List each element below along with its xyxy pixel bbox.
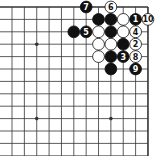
black-stone (117, 38, 129, 50)
star-point-icon (35, 117, 39, 121)
black-stone (105, 14, 117, 26)
white-stone (93, 26, 105, 38)
white-stone-move-6: 6 (105, 1, 117, 13)
black-stone-icon (105, 14, 117, 26)
black-stone-icon (93, 14, 105, 26)
black-stone-move-5: 5 (80, 26, 92, 38)
black-stone (105, 51, 117, 63)
black-stone-icon (105, 26, 117, 38)
move-number-label: 10 (142, 15, 154, 24)
black-stone-icon (68, 26, 80, 38)
star-point-icon (35, 42, 39, 46)
move-number-label: 6 (108, 3, 114, 12)
black-stone-icon (105, 63, 117, 75)
white-stone-move-4: 4 (130, 26, 142, 38)
go-board-diagram: 76110542389 (0, 0, 158, 156)
white-stone-icon (105, 38, 117, 50)
black-stone (105, 26, 117, 38)
black-stone (105, 63, 117, 75)
black-stone-icon (117, 38, 129, 50)
white-stone (117, 14, 129, 26)
black-stone-move-3: 3 (117, 51, 129, 63)
white-stone-move-2: 2 (130, 38, 142, 50)
move-number-label: 3 (120, 53, 126, 62)
move-number-label: 5 (83, 28, 89, 37)
black-stone-icon (105, 51, 117, 63)
white-stone (93, 38, 105, 50)
move-number-label: 2 (133, 40, 139, 49)
white-stone-icon (117, 26, 129, 38)
black-stone-move-1: 1 (130, 14, 142, 26)
white-stone-icon (93, 26, 105, 38)
white-stone (93, 51, 105, 63)
move-number-label: 1 (133, 15, 139, 24)
move-number-label: 9 (133, 65, 139, 74)
white-stone-move-10: 10 (142, 14, 154, 26)
move-number-label: 4 (133, 28, 139, 37)
black-stone-move-7: 7 (80, 1, 92, 13)
black-stone (93, 14, 105, 26)
black-stone-move-9: 9 (130, 63, 142, 75)
move-number-label: 8 (133, 53, 139, 62)
white-stone (105, 38, 117, 50)
stones: 76110542389 (68, 1, 154, 75)
star-point-icon (109, 117, 113, 121)
white-stone-icon (93, 51, 105, 63)
white-stone (117, 26, 129, 38)
white-stone-move-8: 8 (130, 51, 142, 63)
black-stone (68, 26, 80, 38)
white-stone-icon (93, 38, 105, 50)
white-stone-icon (117, 14, 129, 26)
move-number-label: 7 (83, 3, 89, 12)
